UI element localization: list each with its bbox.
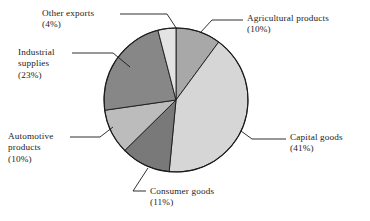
slice-label-agricultural-products-text: Agricultural products [247,13,329,23]
slice-label-industrial-supplies-pct: (23%) [18,70,55,81]
slice-label-capital-goods: Capital goods (41%) [290,132,343,155]
leader-line-agricultural-products [200,20,243,33]
slice-label-automotive-products-text2: products [8,142,53,153]
slice-label-automotive-products-text: Automotive [8,131,53,141]
slice-label-automotive-products: Automotive products (10%) [8,131,53,165]
leader-line-other-exports [120,14,177,29]
leader-line-consumer-goods [133,168,148,191]
slice-label-consumer-goods-text: Consumer goods [150,186,214,196]
slice-label-consumer-goods-pct: (11%) [150,197,214,208]
slice-label-capital-goods-pct: (41%) [290,143,343,154]
leader-line-automotive-products [70,127,113,137]
slice-label-automotive-products-pct: (10%) [8,154,53,165]
slice-label-industrial-supplies: Industrial supplies (23%) [18,47,55,81]
slice-label-industrial-supplies-text2: supplies [18,58,55,69]
slice-label-industrial-supplies-text: Industrial [18,47,55,57]
slice-label-capital-goods-text: Capital goods [290,132,343,142]
pie-slices-group [104,28,248,172]
slice-label-consumer-goods: Consumer goods (11%) [150,186,214,209]
slice-label-other-exports-text: Other exports [42,8,94,18]
slice-label-other-exports-pct: (4%) [42,19,94,30]
slice-label-agricultural-products-pct: (10%) [247,24,329,35]
slice-label-other-exports: Other exports (4%) [42,8,94,31]
leader-line-capital-goods [241,131,286,139]
pie-chart-figure: Other exports (4%) Industrial supplies (… [0,0,370,221]
slice-label-agricultural-products: Agricultural products (10%) [247,13,329,36]
